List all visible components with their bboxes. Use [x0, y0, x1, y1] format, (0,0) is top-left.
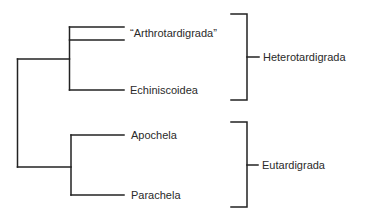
- taxon-label-arthrotardigrada: “Arthrotardigrada”: [130, 27, 217, 39]
- taxon-label-parachela: Parachela: [131, 189, 181, 201]
- group-label-eutardigrada: Eutardigrada: [262, 159, 325, 171]
- heterotardigrada-bracket: [231, 14, 247, 100]
- taxon-label-echiniscoidea: Echiniscoidea: [130, 84, 198, 96]
- eutardigrada-bracket: [231, 122, 247, 207]
- taxon-label-apochela: Apochela: [131, 129, 177, 141]
- group-label-heterotardigrada: Heterotardigrada: [263, 51, 346, 63]
